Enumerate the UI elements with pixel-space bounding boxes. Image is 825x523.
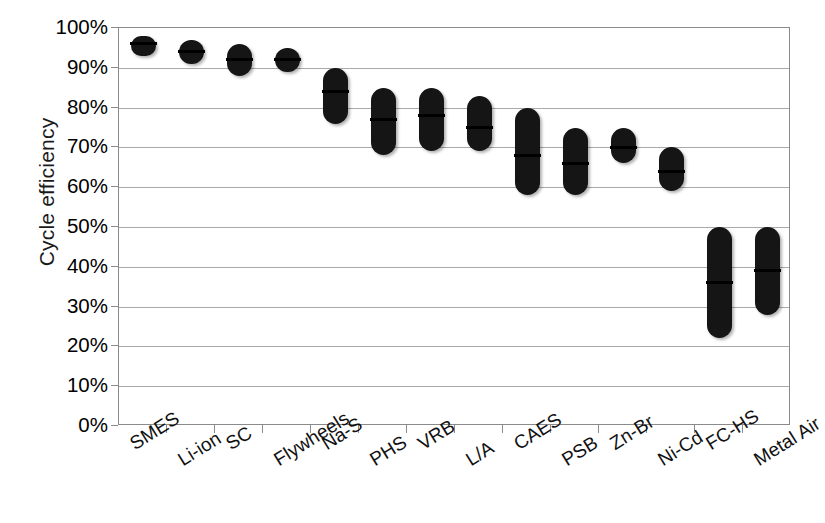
y-axis-tick-label: 10% xyxy=(8,373,108,397)
range-bar xyxy=(515,108,540,196)
gridline xyxy=(119,68,789,69)
median-marker xyxy=(514,154,541,157)
y-axis-tick-mark xyxy=(111,345,118,346)
gridline xyxy=(119,147,789,148)
y-axis-tick-mark xyxy=(111,425,118,426)
median-marker xyxy=(178,50,205,53)
median-marker xyxy=(466,126,493,129)
x-axis-category-labels: SMESLi-ionSCFlywheelsNa-SPHSVRBL/ACAESPS… xyxy=(118,436,790,521)
gridline xyxy=(119,386,789,387)
gridline xyxy=(119,346,789,347)
y-axis-tick-label: 0% xyxy=(8,413,108,437)
cycle-efficiency-chart: Cycle efficiency 100%90%80%70%60%50%40%3… xyxy=(0,0,825,523)
x-axis-category-label: L/A xyxy=(462,437,498,471)
y-axis-tick-mark xyxy=(111,27,118,28)
median-marker xyxy=(130,42,157,45)
median-marker xyxy=(754,269,781,272)
gridline xyxy=(119,187,789,188)
range-bar xyxy=(419,88,444,152)
x-axis-category-label: PSB xyxy=(558,432,602,471)
x-axis-category-label: PHS xyxy=(366,431,411,470)
y-axis-tick-label: 30% xyxy=(8,294,108,318)
y-axis-tick-mark xyxy=(111,186,118,187)
y-axis-tick-mark xyxy=(111,67,118,68)
median-marker xyxy=(322,90,349,93)
y-axis-tick-labels: 100%90%80%70%60%50%40%30%20%10%0% xyxy=(8,27,108,425)
median-marker xyxy=(610,146,637,149)
plot-area xyxy=(118,27,790,425)
range-bar xyxy=(323,68,348,124)
range-bar xyxy=(371,88,396,156)
y-axis-tick-label: 20% xyxy=(8,333,108,357)
median-marker xyxy=(418,114,445,117)
x-axis-tick-mark xyxy=(598,425,599,433)
y-axis-tick-label: 100% xyxy=(8,15,108,39)
y-axis-tick-mark xyxy=(111,306,118,307)
y-axis-tick-label: 70% xyxy=(8,134,108,158)
y-axis-tick-label: 40% xyxy=(8,254,108,278)
y-axis-tick-mark xyxy=(111,146,118,147)
x-axis-tick-mark xyxy=(502,425,503,433)
median-marker xyxy=(658,170,685,173)
y-axis-tick-mark xyxy=(111,107,118,108)
gridline xyxy=(119,307,789,308)
y-axis-tick-label: 50% xyxy=(8,214,108,238)
range-bar xyxy=(467,96,492,152)
median-marker xyxy=(226,58,253,61)
gridline xyxy=(119,227,789,228)
gridline xyxy=(119,267,789,268)
range-bar xyxy=(131,36,156,56)
y-axis-tick-mark xyxy=(111,226,118,227)
median-marker xyxy=(274,58,301,61)
median-marker xyxy=(706,281,733,284)
x-axis-tick-mark xyxy=(406,425,407,433)
gridline xyxy=(119,108,789,109)
y-axis-tick-mark xyxy=(111,266,118,267)
y-axis-tick-mark xyxy=(111,385,118,386)
median-marker xyxy=(562,162,589,165)
median-marker xyxy=(370,118,397,121)
x-axis-tick-mark xyxy=(262,425,263,433)
y-axis-tick-label: 90% xyxy=(8,55,108,79)
y-axis-tick-label: 60% xyxy=(8,174,108,198)
y-axis-tick-label: 80% xyxy=(8,95,108,119)
